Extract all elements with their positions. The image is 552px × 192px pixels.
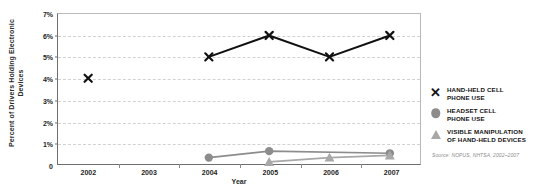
x-tick-label: 2003 [141,169,157,176]
chart-legend: ✕HAND-HELD CELLPHONE USEHEADSET CELLPHON… [428,85,550,149]
x-tick-mark [361,164,362,168]
x-glyph: ✕ [430,86,441,99]
x-tick-label: 2007 [384,169,400,176]
legend-label-line2: OF HAND-HELD DEVICES [447,136,526,144]
plot-area: 01%2%3%4%5%6%7% 200220032004200520062007 [57,13,421,165]
x-tick-mark [240,164,241,168]
y-tick-label: 0 [49,163,53,170]
y-tick-label: 4% [43,76,53,83]
legend-marker-circle-icon [428,106,443,120]
source-note: Source: NOPUS, NHTSA, 2002–2007 [432,152,519,158]
chart-container: Percent of Drivers Holding Electronic De… [0,0,552,192]
legend-item[interactable]: VISIBLE MANIPULATIONOF HAND-HELD DEVICES [428,127,550,143]
y-tick-label: 5% [43,54,53,61]
series-1 [85,32,394,82]
x-tick-label: 2004 [202,169,218,176]
x-tick-label: 2006 [323,169,339,176]
y-tick-label: 7% [43,11,53,18]
series-layer [58,14,420,164]
x-axis-title: Year [57,178,421,185]
legend-label-line1: VISIBLE MANIPULATION [447,128,526,136]
legend-item[interactable]: ✕HAND-HELD CELLPHONE USE [428,85,550,101]
legend-label-line2: PHONE USE [447,94,504,102]
legend-label-line1: HAND-HELD CELL [447,86,504,94]
y-axis-title: Percent of Drivers Holding Electronic De… [7,13,25,153]
legend-item[interactable]: HEADSET CELLPHONE USE [428,106,550,122]
y-tick-label: 1% [43,141,53,148]
legend-marker-triangle-icon [428,127,443,141]
x-tick-label: 2005 [263,169,279,176]
legend-label: VISIBLE MANIPULATIONOF HAND-HELD DEVICES [447,127,526,143]
y-tick-label: 2% [43,119,53,126]
legend-label: HAND-HELD CELLPHONE USE [447,85,504,101]
y-tick-label: 3% [43,97,53,104]
triangle-glyph [431,130,441,139]
x-tick-label: 2002 [81,169,97,176]
data-point-circle [205,153,213,161]
x-tick-mark [301,164,302,168]
data-point-circle [265,147,273,155]
legend-marker-x-icon: ✕ [428,85,443,99]
data-point-x [85,75,92,82]
circle-glyph [431,108,441,118]
legend-label: HEADSET CELLPHONE USE [447,106,496,122]
legend-label-line1: HEADSET CELL [447,107,496,115]
x-tick-mark [179,164,180,168]
x-tick-mark [119,164,120,168]
y-tick-label: 6% [43,32,53,39]
legend-label-line2: PHONE USE [447,115,496,123]
